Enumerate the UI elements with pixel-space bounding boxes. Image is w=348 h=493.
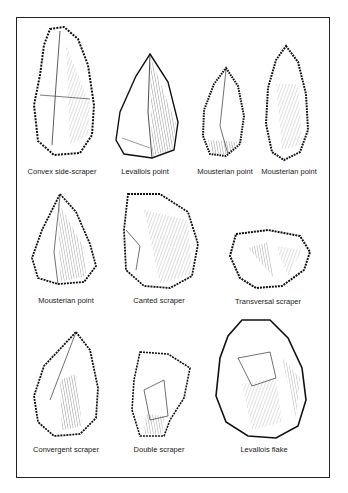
- tool-label: Double scraper: [134, 445, 185, 454]
- canted-scraper-drawing: [120, 190, 200, 290]
- levallois-point-drawing: [112, 52, 184, 160]
- tool-label: Transversal scraper: [235, 297, 301, 306]
- tool-label: Levallois flake: [240, 445, 287, 454]
- tool-label: Mousterian point: [261, 167, 316, 176]
- mousterian-point-3-drawing: [28, 192, 100, 286]
- tool-label: Convex side-scraper: [28, 167, 97, 176]
- convex-side-scraper-drawing: [30, 25, 98, 158]
- tool-label: Levallois point: [121, 167, 169, 176]
- tool-label: Mousterian point: [197, 167, 252, 176]
- mousterian-point-2-drawing: [262, 44, 312, 162]
- mousterian-point-1-drawing: [200, 66, 246, 160]
- double-scraper-drawing: [128, 350, 194, 438]
- transversal-scraper-drawing: [228, 228, 312, 290]
- levallois-flake-drawing: [212, 318, 308, 440]
- tool-label: Mousterian point: [38, 296, 93, 305]
- tool-label: Convergent scraper: [33, 445, 99, 454]
- convergent-scraper-drawing: [30, 330, 102, 438]
- tool-label: Canted scraper: [133, 296, 184, 305]
